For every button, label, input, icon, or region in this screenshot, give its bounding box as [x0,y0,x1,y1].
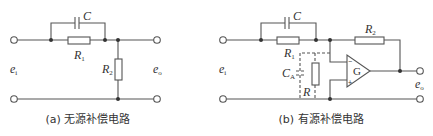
a-label-ei: ei [10,62,17,77]
b-caption: (b) 有源补偿电路 [278,112,363,126]
b-label-c: C [293,9,302,23]
b-junction-dot [259,38,263,42]
a-junction-dot [103,38,107,42]
a-output-terminal-bottom [154,96,161,103]
a-resistor-r1 [68,37,90,44]
compensation-circuits-figure: C R1 R2 ei eo (a) 无源补偿电路 G − + [0,0,433,136]
b-opamp-minus: − [348,58,352,65]
a-caption: (a) 无源补偿电路 [46,112,131,126]
a-junction-dot [116,97,120,101]
b-junction-dot [328,38,332,42]
b-inverting-input-wire [330,40,347,62]
b-noninverting-input-wire [330,80,347,99]
b-feedback-wire [384,40,400,71]
a-input-terminal-bottom [11,96,18,103]
b-label-ca: CA [282,66,295,81]
a-junction-dot [116,38,120,42]
b-junction-dot [328,97,332,101]
b-resistor-r [312,63,319,85]
b-opamp-plus: + [348,79,352,86]
a-label-r1: R1 [73,48,85,63]
b-resistor-r1 [277,37,299,44]
b-junction-dot [314,38,318,42]
b-label-r1: R1 [283,46,295,61]
b-junction-dot [398,69,402,73]
b-input-terminal-top [220,37,227,44]
a-label-eo: eo [153,62,162,77]
panel-b-active-circuit: G − + C R1 R2 CA R ei eo (b) 有源补偿电路 [219,9,424,126]
a-output-terminal-top [154,37,161,44]
a-input-terminal-top [11,37,18,44]
b-label-r2: R2 [364,22,376,37]
a-label-r2: R2 [101,62,113,77]
panel-a-passive-circuit: C R1 R2 ei eo (a) 无源补偿电路 [10,9,162,126]
b-output-terminal-top [417,68,424,75]
b-output-terminal-bottom [417,96,424,103]
a-label-c: C [83,9,92,23]
b-opamp-label-g: G [353,65,361,77]
a-junction-dot [49,38,53,42]
a-resistor-r2 [115,59,122,80]
b-input-terminal-bottom [220,96,227,103]
b-resistor-r2 [355,37,384,44]
b-label-eo: eo [415,77,424,92]
b-label-ei: ei [219,62,226,77]
b-label-r: R [302,85,311,99]
